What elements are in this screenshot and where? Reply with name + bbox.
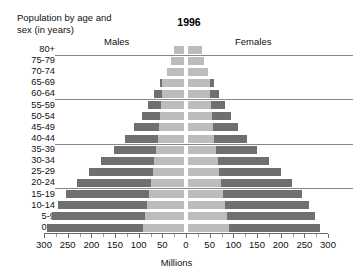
age-group-label: 45-49 (0, 122, 55, 133)
axis-tick-minor (151, 234, 152, 237)
female-bar-inner (188, 157, 217, 165)
female-bar-inner (188, 112, 212, 120)
age-group-label: 50-54 (0, 111, 55, 122)
male-bar-inner (145, 212, 184, 220)
pyramid-row: 60-64 (0, 88, 353, 99)
female-bar (218, 157, 270, 165)
female-bar-inner (188, 79, 210, 87)
male-bar (160, 79, 162, 87)
male-bar-inner (151, 179, 184, 187)
male-bar-inner (158, 135, 184, 143)
male-bar (114, 146, 157, 154)
female-bar-inner (188, 168, 219, 176)
pyramid-row: 65-69 (0, 77, 353, 88)
male-bar (101, 157, 154, 165)
male-bar-inner (153, 168, 184, 176)
female-bar-inner (188, 212, 227, 220)
female-bar (225, 201, 309, 209)
pyramid-row: 25-29 (0, 166, 353, 177)
axis-tick-minor (316, 234, 317, 237)
female-bar (213, 123, 238, 131)
age-group-label: 25-29 (0, 166, 55, 177)
axis-tick-major (233, 234, 234, 238)
pyramid-row: 20-24 (0, 177, 353, 188)
male-bar (148, 101, 161, 109)
axis-tick-minor (56, 234, 57, 237)
male-bar (52, 212, 145, 220)
male-bar-inner (156, 146, 183, 154)
male-bar-inner (161, 101, 184, 109)
female-bar-inner (188, 90, 210, 98)
x-axis-title: Millions (0, 257, 353, 268)
caption-line-1: Population by age and (17, 12, 157, 24)
female-bar-inner (188, 224, 229, 232)
axis-tick-minor (245, 234, 246, 237)
male-bar (154, 90, 162, 98)
female-bar-inner (188, 190, 223, 198)
female-bar (229, 224, 320, 232)
axis-tick-major (210, 234, 211, 238)
axis-tick-minor (80, 234, 81, 237)
axis-tick-major (328, 234, 329, 238)
male-bar-inner (160, 112, 184, 120)
pyramid-row: 75-79 (0, 55, 353, 66)
axis-tick-minor (174, 234, 175, 237)
axis-tick-minor (222, 234, 223, 237)
female-bar-inner (188, 46, 202, 54)
male-bar (77, 179, 150, 187)
pyramid-row: 50-54 (0, 111, 353, 122)
male-bar-inner (149, 190, 184, 198)
age-group-label: 15-19 (0, 189, 55, 200)
age-group-label: 55-59 (0, 100, 55, 111)
female-bar (210, 79, 214, 87)
female-bar (221, 179, 292, 187)
age-group-label: 20-24 (0, 177, 55, 188)
pyramid-row: 35-39 (0, 144, 353, 155)
male-bar-inner (162, 90, 184, 98)
axis-tick-minor (127, 234, 128, 237)
age-group-label: 80+ (0, 44, 55, 55)
age-group-label: 40-44 (0, 133, 55, 144)
year-label: 1996 (163, 16, 215, 28)
axis-tick-minor (103, 234, 104, 237)
axis-tick-major (139, 234, 140, 238)
axis-tick-major (257, 234, 258, 238)
population-pyramid-chart: Population by age and sex (in years) 199… (0, 0, 353, 275)
male-bar-inner (143, 224, 184, 232)
male-bar (89, 168, 152, 176)
pyramid-row: 80+ (0, 44, 353, 55)
male-bar-inner (147, 201, 184, 209)
female-bar (214, 135, 247, 143)
female-bar-inner (188, 68, 208, 76)
axis-tick-major (281, 234, 282, 238)
pyramid-row: 15-19 (0, 189, 353, 200)
axis-tick-major (115, 234, 116, 238)
age-group-label: 5-9 (0, 211, 55, 222)
female-bar (223, 190, 302, 198)
age-group-label: 30-34 (0, 155, 55, 166)
axis-tick-minor (269, 234, 270, 237)
female-bar-inner (188, 146, 215, 154)
axis-tick-major (186, 234, 187, 238)
age-group-label: 10-14 (0, 200, 55, 211)
female-bar-inner (188, 123, 213, 131)
male-bar-inner (171, 57, 183, 65)
axis-tick-major (68, 234, 69, 238)
male-bar-inner (174, 46, 183, 54)
male-bar (66, 190, 148, 198)
male-bar-inner (159, 123, 184, 131)
male-bar (58, 201, 147, 209)
female-bar-inner (188, 135, 214, 143)
male-bar-inner (167, 68, 184, 76)
pyramid-row: 55-59 (0, 100, 353, 111)
male-bar (142, 112, 160, 120)
pyramid-row: 40-44 (0, 133, 353, 144)
pyramid-plot-area: 80+75-7970-7465-6960-6455-5950-5445-4940… (0, 44, 353, 233)
axis-tick-major (91, 234, 92, 238)
axis-tick-label: 300 (308, 239, 348, 250)
age-group-label: 35-39 (0, 144, 55, 155)
pyramid-row: 70-74 (0, 66, 353, 77)
age-group-label: 65-69 (0, 77, 55, 88)
male-bar-inner (162, 79, 184, 87)
male-bar-inner (154, 157, 183, 165)
